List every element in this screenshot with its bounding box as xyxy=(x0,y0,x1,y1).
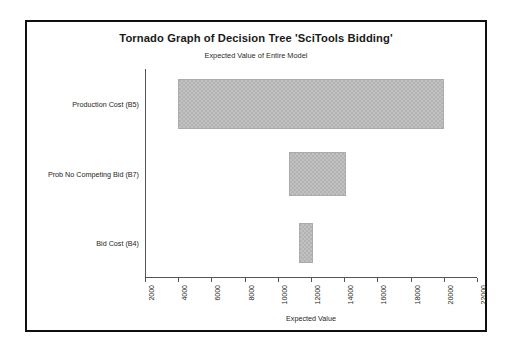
tick-mark xyxy=(145,278,146,282)
tick-label: 20000 xyxy=(447,285,454,304)
tick-label: 22000 xyxy=(480,285,487,304)
bar-3 xyxy=(299,223,312,263)
tick-label: 12000 xyxy=(314,285,321,304)
category-label: Prob No Competing Bid (B7) xyxy=(48,169,139,178)
category-axis-labels: Production Cost (B5)Prob No Competing Bi… xyxy=(27,69,139,278)
plot-area xyxy=(145,69,477,278)
tick-mark xyxy=(344,278,345,282)
tick-mark xyxy=(377,278,378,282)
bar-1 xyxy=(178,79,444,129)
tick-mark xyxy=(245,278,246,282)
y-axis-line xyxy=(145,69,146,278)
tick-label: 18000 xyxy=(414,285,421,304)
category-label: Production Cost (B5) xyxy=(72,99,139,108)
tick-mark xyxy=(444,278,445,282)
tick-mark xyxy=(211,278,212,282)
tick-label: 2000 xyxy=(148,285,155,301)
tick-label: 8000 xyxy=(248,285,255,301)
tick-label: 4000 xyxy=(181,285,188,301)
tick-mark xyxy=(477,278,478,282)
tick-mark xyxy=(278,278,279,282)
tick-label: 14000 xyxy=(347,285,354,304)
category-label: Bid Cost (B4) xyxy=(96,239,139,248)
tick-label: 16000 xyxy=(380,285,387,304)
chart-frame: Tornado Graph of Decision Tree 'SciTools… xyxy=(25,20,487,332)
tick-mark xyxy=(178,278,179,282)
chart-title: Tornado Graph of Decision Tree 'SciTools… xyxy=(27,32,485,44)
bar-2 xyxy=(289,152,345,196)
tick-mark xyxy=(311,278,312,282)
chart-subtitle: Expected Value of Entire Model xyxy=(27,51,485,60)
tick-label: 10000 xyxy=(281,285,288,304)
x-axis-title: Expected Value xyxy=(145,314,477,323)
tick-label: 6000 xyxy=(214,285,221,301)
tick-mark xyxy=(411,278,412,282)
